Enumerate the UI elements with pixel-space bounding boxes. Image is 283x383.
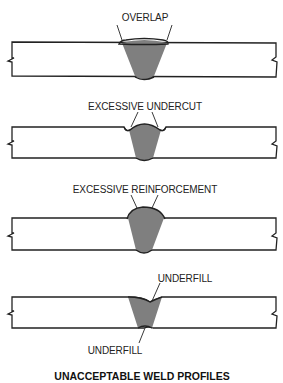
leader-line: [167, 25, 172, 40]
profile-underfill: UNDERFILL UNDERFILL: [8, 273, 277, 356]
label-underfill-bottom: UNDERFILL: [88, 345, 143, 356]
label-overlap: OVERLAP: [122, 12, 169, 23]
leader-line: [131, 112, 138, 127]
profile-excessive-reinforcement: EXCESSIVE REINFORCEMENT: [8, 184, 277, 253]
leader-line: [139, 328, 145, 343]
profile-overlap: OVERLAP: [8, 12, 277, 80]
leader-line: [152, 112, 158, 127]
leader-line: [117, 25, 122, 40]
weld-profiles-diagram: OVERLAP EXCESSIVE UNDERCUT EXCESSIVE REI…: [0, 0, 283, 383]
leader-line: [152, 195, 158, 208]
label-underfill-top: UNDERFILL: [158, 273, 213, 284]
profile-excessive-undercut: EXCESSIVE UNDERCUT: [8, 101, 277, 161]
diagram-title: UNACCEPTABLE WELD PROFILES: [54, 370, 229, 382]
leader-line: [131, 195, 137, 208]
label-excessive-undercut: EXCESSIVE UNDERCUT: [88, 101, 202, 112]
label-excessive-reinforcement: EXCESSIVE REINFORCEMENT: [73, 184, 217, 195]
